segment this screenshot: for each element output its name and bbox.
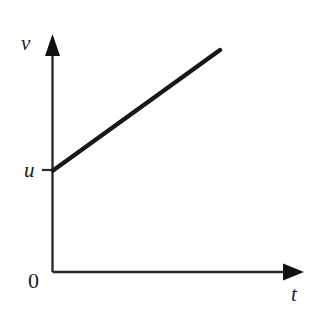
velocity-time-graph xyxy=(0,0,313,318)
origin-label: 0 xyxy=(28,270,39,292)
y-axis-label: v xyxy=(21,33,30,54)
figure-background xyxy=(0,0,313,318)
initial-velocity-label: u xyxy=(24,160,35,181)
x-axis-label: t xyxy=(291,284,297,305)
